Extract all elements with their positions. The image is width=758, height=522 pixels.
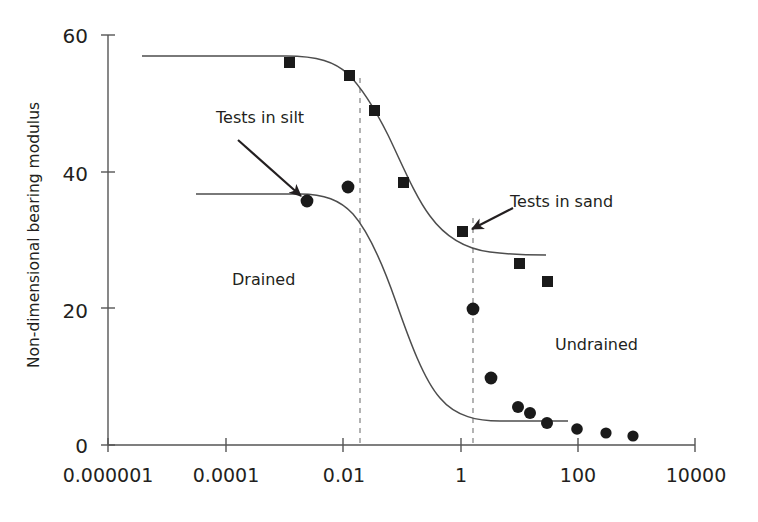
data-point-circle xyxy=(524,407,536,419)
data-point-circle xyxy=(342,181,355,194)
data-point-circle xyxy=(301,195,314,208)
fit-curve-sand xyxy=(142,56,546,255)
data-point-square xyxy=(369,105,380,116)
arrow-tests-in-silt xyxy=(238,140,301,196)
series-tests-in-sand xyxy=(284,57,553,287)
data-point-circle xyxy=(467,303,480,316)
data-point-square xyxy=(344,70,355,81)
plot-area xyxy=(0,0,758,522)
series-tests-in-silt xyxy=(301,181,639,442)
data-point-circle xyxy=(571,423,583,435)
arrow-tests-in-sand xyxy=(472,208,513,229)
data-point-circle xyxy=(541,417,553,429)
data-point-square xyxy=(284,57,295,68)
data-point-square xyxy=(457,226,468,237)
fit-curve-silt xyxy=(196,194,568,421)
data-point-square xyxy=(398,177,409,188)
data-point-circle xyxy=(512,401,524,413)
data-point-square xyxy=(514,258,525,269)
annotation-arrows xyxy=(238,140,513,229)
chart-figure: Non-dimensional bearing modulus 60 40 20… xyxy=(0,0,758,522)
axis-lines xyxy=(108,35,695,445)
data-point-circle xyxy=(485,372,498,385)
reference-lines xyxy=(360,78,473,445)
data-point-circle xyxy=(627,430,638,441)
data-point-circle xyxy=(600,427,611,438)
data-point-square xyxy=(542,276,553,287)
